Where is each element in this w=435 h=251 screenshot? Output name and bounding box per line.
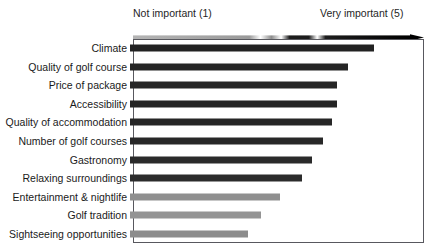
category-label: Quality of golf course bbox=[0, 61, 130, 73]
bar-track bbox=[130, 132, 421, 151]
category-label: Entertainment & nightlife bbox=[0, 191, 130, 203]
category-label: Climate bbox=[0, 42, 130, 54]
bar-track bbox=[130, 39, 421, 58]
category-label: Gastronomy bbox=[0, 154, 130, 166]
bar-track bbox=[130, 95, 421, 114]
bar-track bbox=[130, 187, 421, 206]
bar-track bbox=[130, 113, 421, 132]
bar-row: Quality of accommodation bbox=[0, 113, 435, 132]
bar-row: Entertainment & nightlife bbox=[0, 187, 435, 206]
category-label: Number of golf courses bbox=[0, 135, 130, 147]
bar-rows: ClimateQuality of golf coursePrice of pa… bbox=[0, 39, 435, 243]
bar-row: Gastronomy bbox=[0, 150, 435, 169]
category-label: Quality of accommodation bbox=[0, 116, 130, 128]
category-label: Sightseeing opportunities bbox=[0, 228, 130, 240]
bar bbox=[130, 45, 374, 52]
bar-row: Relaxing surroundings bbox=[0, 169, 435, 188]
bar-row: Golf tradition bbox=[0, 206, 435, 225]
bar-track bbox=[130, 224, 421, 243]
bar bbox=[130, 137, 323, 144]
bar-track bbox=[130, 76, 421, 95]
bar bbox=[130, 156, 312, 163]
scale-legend: Not important (1) Very important (5) bbox=[0, 7, 435, 23]
scale-label-low: Not important (1) bbox=[133, 7, 212, 20]
bar-row: Accessibility bbox=[0, 95, 435, 114]
horizontal-bar-chart: Not important (1) Very important (5) bbox=[0, 0, 435, 251]
bar bbox=[130, 63, 348, 70]
bar-track bbox=[130, 169, 421, 188]
bar-row: Sightseeing opportunities bbox=[0, 224, 435, 243]
bar-track bbox=[130, 150, 421, 169]
category-label: Price of package bbox=[0, 79, 130, 91]
bar-row: Quality of golf course bbox=[0, 58, 435, 77]
bar bbox=[130, 230, 248, 237]
category-label: Golf tradition bbox=[0, 209, 130, 221]
bar bbox=[130, 212, 261, 219]
scale-label-high: Very important (5) bbox=[320, 7, 403, 20]
bar-track bbox=[130, 58, 421, 77]
bar bbox=[130, 175, 302, 182]
category-label: Relaxing surroundings bbox=[0, 172, 130, 184]
bar-row: Number of golf courses bbox=[0, 132, 435, 151]
bar bbox=[130, 193, 280, 200]
gradient-arrow-icon bbox=[133, 28, 424, 37]
bar-row: Price of package bbox=[0, 76, 435, 95]
bar-track bbox=[130, 206, 421, 225]
category-label: Accessibility bbox=[0, 98, 130, 110]
bar bbox=[130, 100, 337, 107]
bar bbox=[130, 82, 337, 89]
bar-row: Climate bbox=[0, 39, 435, 58]
bar bbox=[130, 119, 332, 126]
